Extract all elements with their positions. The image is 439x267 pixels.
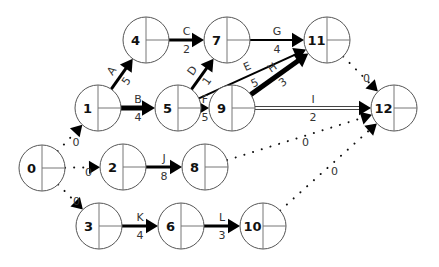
arrowhead-icon xyxy=(146,219,158,233)
node-label: 1 xyxy=(83,101,92,116)
arrowhead-icon xyxy=(170,160,182,174)
activity-duration: 1 xyxy=(200,75,215,88)
dummy-duration: 0 xyxy=(302,136,309,149)
arrowhead-icon xyxy=(201,59,214,73)
node-5: 5 xyxy=(155,85,201,131)
dummy-activity-11-12 xyxy=(343,56,378,91)
activity-duration: 4 xyxy=(135,111,142,124)
arrowhead-icon xyxy=(360,112,372,125)
activity-name: C xyxy=(183,25,191,38)
node-label: 12 xyxy=(374,101,392,116)
node-1: 1 xyxy=(75,85,121,131)
dummy-duration: 0 xyxy=(331,165,338,178)
node-8: 8 xyxy=(182,144,228,190)
node-label: 10 xyxy=(243,219,261,234)
activity-duration: 4 xyxy=(274,43,281,56)
arrowhead-icon xyxy=(292,33,304,47)
arrowhead-icon xyxy=(120,59,133,73)
node-label: 6 xyxy=(166,219,175,234)
node-label: 9 xyxy=(217,101,226,116)
activity-duration: 2 xyxy=(183,43,190,56)
node-label: 11 xyxy=(307,33,325,48)
dummy-duration: 0 xyxy=(73,136,80,149)
dummy-duration: 0 xyxy=(363,72,370,85)
activity-name: K xyxy=(136,211,144,224)
activity-duration: 2 xyxy=(310,111,317,124)
node-label: 4 xyxy=(131,33,140,48)
arrowhead-icon xyxy=(142,100,155,116)
node-2: 2 xyxy=(100,144,146,190)
node-11: 11 xyxy=(304,17,350,63)
activity-name: J xyxy=(161,152,165,165)
activity-name: A xyxy=(104,64,119,78)
arrowhead-icon xyxy=(228,219,240,233)
activity-duration: 3 xyxy=(276,75,289,90)
activity-duration: 5 xyxy=(249,76,261,91)
activity-name: G xyxy=(273,25,282,38)
activity-duration: 5 xyxy=(202,111,209,124)
node-10: 10 xyxy=(240,203,286,249)
node-label: 2 xyxy=(108,160,117,175)
node-label: 3 xyxy=(84,219,93,234)
node-3: 3 xyxy=(76,203,122,249)
activity-H xyxy=(251,53,309,94)
node-0: 0 xyxy=(19,145,65,191)
activity-duration: 3 xyxy=(219,229,226,242)
arrowhead-icon xyxy=(364,123,377,135)
dummy-activity-10-12 xyxy=(280,123,377,210)
node-6: 6 xyxy=(158,203,204,249)
activity-duration: 5 xyxy=(119,75,134,88)
node-label: 7 xyxy=(212,33,221,48)
dummy-duration: 0 xyxy=(73,195,80,208)
activity-duration: 4 xyxy=(137,229,144,242)
activity-name: D xyxy=(185,63,201,77)
activity-duration: 8 xyxy=(161,170,168,183)
node-label: 0 xyxy=(27,161,36,176)
node-9: 9 xyxy=(209,85,255,131)
activity-name: I xyxy=(311,93,314,106)
node-label: 8 xyxy=(190,160,199,175)
activity-name: L xyxy=(219,211,226,224)
dummy-activity-0-2 xyxy=(65,161,100,174)
activity-name: F xyxy=(202,93,208,106)
arrowhead-icon xyxy=(192,33,204,47)
node-label: 5 xyxy=(163,101,172,116)
node-12: 12 xyxy=(371,85,417,131)
activity-name: B xyxy=(134,93,142,106)
activity-name: E xyxy=(241,59,253,74)
network-diagram: 0123456789101112 A5B4C2D1E5F5G4H3I2J8K4L… xyxy=(0,0,439,267)
dummy-duration: 0 xyxy=(85,166,92,179)
node-4: 4 xyxy=(123,17,169,63)
node-7: 7 xyxy=(204,17,250,63)
